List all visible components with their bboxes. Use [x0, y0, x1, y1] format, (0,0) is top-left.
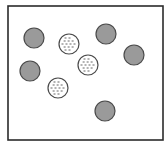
striped-particle — [78, 55, 98, 75]
solid-particle — [124, 45, 144, 65]
solid-particle — [95, 101, 115, 121]
particle-diagram — [0, 0, 168, 151]
solid-particle — [96, 24, 116, 44]
solid-particle — [24, 28, 44, 48]
particles-group — [20, 24, 144, 121]
diagram-stage — [0, 0, 168, 151]
striped-particle — [48, 78, 68, 98]
striped-particle — [59, 34, 79, 54]
solid-particle — [20, 61, 40, 81]
